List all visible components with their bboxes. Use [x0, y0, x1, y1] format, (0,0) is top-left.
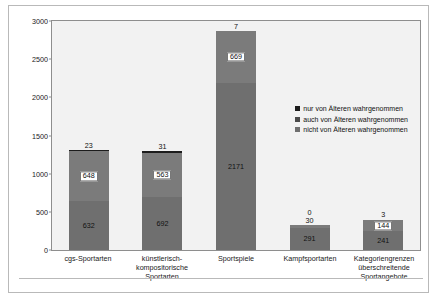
y-tick-label-0: 0	[44, 246, 48, 255]
stacked-bar[interactable]: 23 648 632	[69, 150, 109, 250]
y-tick-label-2000: 2000	[32, 93, 48, 102]
y-tick-label-2500: 2500	[32, 55, 48, 64]
stacked-bar[interactable]: 3 144 241	[363, 220, 403, 250]
x-label-kampfsportarten: Kampfsportarten	[273, 254, 347, 281]
x-label-line: kompositorische	[127, 263, 197, 272]
y-tick-label-1500: 1500	[32, 131, 48, 140]
square-marker-icon	[295, 106, 300, 111]
bar-value-nicht: 241	[377, 237, 389, 244]
legend-item-nur[interactable]: nur von Älteren wahrgenommen	[295, 105, 408, 112]
bar-segment-auch[interactable]: 648	[69, 151, 109, 201]
bar-value-auch: 30	[306, 217, 314, 224]
x-label-line: künstlerisch-	[127, 254, 197, 263]
bar-value-auch: 648	[80, 172, 98, 181]
bar-value-nicht: 291	[304, 235, 316, 242]
square-marker-icon	[295, 117, 300, 122]
stacked-bar[interactable]: 7 669 2171	[216, 31, 256, 250]
bar-segment-nicht[interactable]: 2171	[216, 83, 256, 250]
x-axis-labels: cgs-Sportarten künstlerisch- kompositori…	[51, 254, 421, 281]
x-label-line: Sportarten	[127, 272, 197, 281]
legend-item-auch[interactable]: auch von Älteren wahrgenommen	[295, 116, 408, 123]
x-label-cgs-sportarten: cgs-Sportarten	[51, 254, 125, 281]
stacked-bar[interactable]: 31 563 692	[142, 151, 182, 250]
x-label-line: überschreitende	[349, 263, 419, 272]
y-tick-label-1000: 1000	[32, 169, 48, 178]
x-label-line: cgs-Sportarten	[53, 254, 123, 263]
x-label-line: Kampfsportarten	[275, 254, 345, 263]
bar-segment-nicht[interactable]: 241	[363, 231, 403, 250]
legend: nur von Älteren wahrgenommen auch von Äl…	[295, 105, 408, 133]
bar-column-cgs-sportarten[interactable]: 23 648 632	[59, 21, 119, 250]
y-tick-label-3000: 3000	[32, 17, 48, 26]
bar-value-nicht: 692	[156, 220, 168, 227]
bar-segment-auch[interactable]: 563	[142, 153, 182, 196]
bar-segment-auch[interactable]: 669	[216, 31, 256, 83]
bar-segment-auch[interactable]: 144	[363, 220, 403, 231]
plot-area: 0 500 1000 1500 2000 2500 3000 23 648	[51, 20, 421, 251]
bottom-divider	[19, 278, 423, 279]
bar-column-kuenstlerisch-kompositorische-sportarten[interactable]: 31 563 692	[132, 21, 192, 250]
bar-column-kategoriengrenzen-ueberschreitende-sportangebote[interactable]: 3 144 241	[353, 21, 413, 250]
legend-label-auch: auch von Älteren wahrgenommen	[303, 116, 408, 123]
x-label-kuenstlerisch-kompositorische-sportarten: künstlerisch- kompositorische Sportarten	[125, 254, 199, 281]
x-label-line: Sportangebote	[349, 272, 419, 281]
bar-column-kampfsportarten[interactable]: 0 30 291	[279, 21, 339, 250]
bar-segment-nicht[interactable]: 692	[142, 197, 182, 250]
bar-value-nur: 23	[85, 142, 93, 149]
bar-value-auch: 669	[227, 52, 245, 61]
legend-label-nicht: nicht von Älteren wahrgenommen	[303, 126, 407, 133]
bar-segment-nicht[interactable]: 632	[69, 201, 109, 250]
bar-column-sportspiele[interactable]: 7 669 2171	[206, 21, 266, 250]
bar-value-auch: 144	[374, 221, 392, 230]
bar-value-nicht: 632	[83, 222, 95, 229]
x-label-line: Kategoriengrenzen	[349, 254, 419, 263]
y-tick-label-500: 500	[36, 207, 48, 216]
chart-frame: 0 500 1000 1500 2000 2500 3000 23 648	[8, 5, 429, 293]
bar-value-nicht: 2171	[228, 163, 244, 170]
legend-label-nur: nur von Älteren wahrgenommen	[303, 105, 403, 112]
bar-segment-nicht[interactable]: 291	[290, 228, 330, 250]
bar-value-auch: 563	[153, 170, 171, 179]
legend-item-nicht[interactable]: nicht von Älteren wahrgenommen	[295, 126, 408, 133]
bar-group: 23 648 632 31 563	[52, 21, 420, 250]
bar-value-nur: 3	[381, 211, 385, 218]
bar-value-nur: 7	[234, 23, 238, 30]
bar-value-nur: 31	[158, 143, 166, 150]
x-label-line: Sportspiele	[201, 254, 271, 263]
stacked-bar[interactable]: 0 30 291	[290, 225, 330, 250]
square-marker-icon	[295, 127, 300, 132]
x-label-sportspiele: Sportspiele	[199, 254, 273, 281]
x-label-kategoriengrenzen-ueberschreitende-sportangebote: Kategoriengrenzen überschreitende Sporta…	[347, 254, 421, 281]
